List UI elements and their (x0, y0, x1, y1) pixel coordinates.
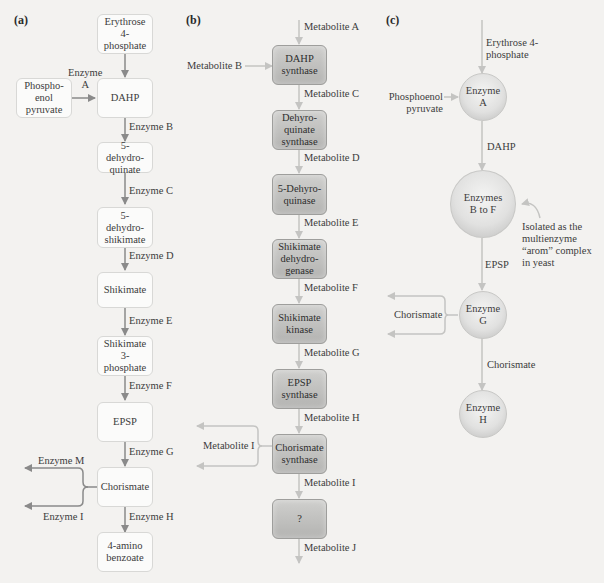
edge-label-metabolite-i: Metabolite I (304, 477, 356, 489)
arom-complex-annotation: Isolated as the multienzyme “arom” compl… (522, 221, 592, 269)
panel-label-a: (a) (14, 13, 28, 28)
edge-label-metabolite-c: Metabolite C (304, 88, 359, 100)
edge-label-enzyme-g: Enzyme G (129, 446, 174, 458)
edge-label-enzyme-b: Enzyme B (129, 121, 173, 133)
node-shikimate-kinase: Shikimate kinase (272, 304, 327, 344)
node-unknown-enzyme: ? (272, 499, 327, 539)
edge-label-enzyme-d: Enzyme D (129, 250, 174, 262)
node-erythrose-4-phosphate: Erythrose 4- phosphate (97, 14, 153, 54)
edge-label-metabolite-g: Metabolite G (304, 347, 360, 359)
edge-label-epsp: EPSP (485, 259, 509, 271)
node-phosphoenolpyruvate: Phospho- enol pyruvate (16, 78, 72, 118)
edge-label-phosphoenolpyruvate: Phosphoenol pyruvate (387, 91, 443, 115)
node-5-dehydroquinase: 5-Dehyro- quinase (272, 174, 327, 215)
node-epsp-synthase: EPSP synthase (272, 369, 327, 409)
edge-label-dahp: DAHP (487, 141, 516, 153)
edge-label-chorismate-branch: Chorismate (394, 309, 442, 321)
node-enzyme-a: Enzyme A (459, 73, 507, 121)
node-chorismate: Chorismate (97, 467, 153, 507)
edge-label-metabolite-j: Metabolite J (304, 542, 356, 554)
edge-label-erythrose-4-phosphate: Erythrose 4- phosphate (486, 37, 538, 61)
edge-label-metabolite-a: Metabolite A (304, 21, 359, 33)
edge-label-chorismate: Chorismate (487, 359, 535, 371)
edge-label-enzyme-m: Enzyme M (38, 455, 84, 467)
node-4-aminobenzoate: 4-amino benzoate (97, 532, 153, 572)
edge-label-metabolite-h: Metabolite H (304, 412, 360, 424)
node-shikimate-dehydrogenase: Shikimate dehydro- genase (272, 239, 327, 279)
node-enzyme-g: Enzyme G (459, 291, 507, 339)
edge-label-metabolite-i-branch: Metabolite I (203, 440, 255, 452)
edge-label-enzyme-e: Enzyme E (129, 315, 172, 327)
node-shikimate: Shikimate (97, 272, 153, 308)
edge-label-enzyme-i: Enzyme I (43, 511, 84, 523)
node-5-dehydroshikimate: 5- dehydro- shikimate (97, 207, 153, 248)
edge-label-metabolite-f: Metabolite F (304, 282, 358, 294)
edge-label-enzyme-a: Enzyme A (68, 67, 102, 91)
edge-label-enzyme-h: Enzyme H (129, 511, 174, 523)
panel-label-b: (b) (186, 13, 201, 28)
node-enzyme-h: Enzyme H (459, 390, 507, 438)
edge-label-metabolite-e: Metabolite E (304, 217, 359, 229)
edge-label-enzyme-f: Enzyme F (129, 380, 172, 392)
node-shikimate-3-phosphate: Shikimate 3- phosphate (97, 336, 153, 376)
panel-label-c: (c) (386, 13, 399, 28)
node-enzymes-b-to-f: Enzymes B to F (450, 170, 516, 238)
edge-label-metabolite-b: Metabolite B (187, 60, 242, 72)
edge-label-enzyme-c: Enzyme C (129, 185, 173, 197)
node-dehydroquinate-synthase: Dehyro- quinate synthase (272, 110, 327, 150)
node-dahp: DAHP (97, 78, 153, 118)
node-dahp-synthase: DAHP synthase (272, 45, 327, 85)
edge-label-metabolite-d: Metabolite D (304, 152, 360, 164)
node-epsp: EPSP (97, 402, 153, 442)
node-5-dehydroquinate: 5- dehydro- quinate (97, 142, 153, 173)
node-chorismate-synthase: Chorismate synthase (272, 434, 327, 474)
